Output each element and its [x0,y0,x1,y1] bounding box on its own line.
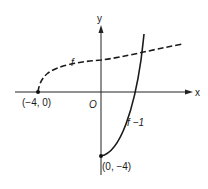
point-0-minus4 [99,154,103,158]
point-0-minus4-label: (0, −4) [102,161,131,172]
y-axis-label: y [97,13,102,24]
x-axis-label: x [195,87,200,98]
curve-f-inverse-label: f −1 [127,117,144,128]
point-minus4-0-label: (−4, 0) [22,97,51,108]
curve-f-label: f [71,57,75,68]
curve-f-inverse [101,34,144,156]
curve-f [38,44,183,92]
y-axis-arrow-icon [99,25,104,33]
origin-label: O [89,99,97,110]
graph: y x O f f −1 (−4, 0) (0, −4) [0,0,208,189]
x-axis-arrow-icon [185,90,193,95]
point-minus4-0 [36,90,40,94]
